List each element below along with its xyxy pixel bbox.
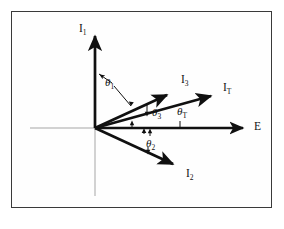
angle-label-theta2: θ2 [146,138,155,149]
axis-label-e: E [254,121,261,133]
reference-axes [30,128,95,196]
vector-label-i2: I2 [186,168,194,180]
vector-label-i1: I1 [79,23,87,35]
vector-label-it: IT [223,82,231,94]
phasor-diagram-figure: I1 I3 IT I2 E θ1 θ3 θT θ2 [0,0,284,229]
angle-label-theta1: θ1 [105,77,114,88]
angle-label-theta3: θ3 [152,107,161,118]
angle-label-thetaT: θT [177,106,187,117]
vector-label-i3: I3 [181,74,189,86]
phasor-plot-svg [0,0,284,229]
vector-i2 [95,128,173,164]
